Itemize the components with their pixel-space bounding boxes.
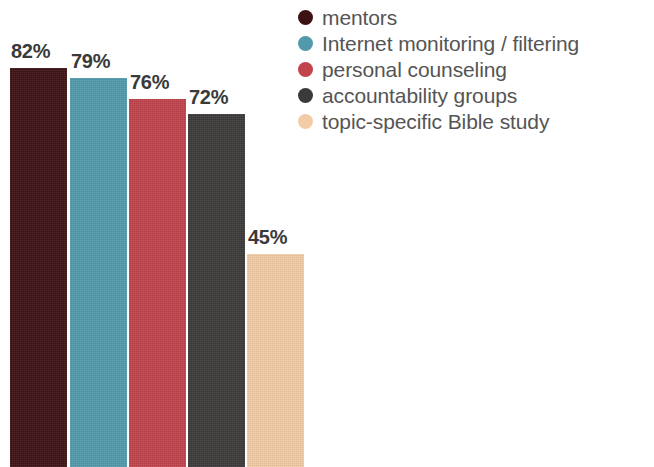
- legend-item-label: personal counseling: [322, 59, 507, 80]
- bar-group: 72%: [188, 110, 245, 467]
- chart-page: 82% 79% 76% 72% 45% mentors Internet mon…: [0, 0, 654, 467]
- legend-item-accountability-groups[interactable]: accountability groups: [298, 82, 654, 108]
- legend-item-personal-counseling[interactable]: personal counseling: [298, 56, 654, 82]
- bar-personal-counseling[interactable]: [129, 99, 186, 467]
- legend-item-label: Internet monitoring / filtering: [322, 33, 579, 54]
- legend-item-mentors[interactable]: mentors: [298, 4, 654, 30]
- bar-topic-specific-bible-study[interactable]: [247, 254, 304, 467]
- bar-group: 76%: [129, 95, 186, 467]
- legend-color-swatch-icon: [298, 114, 313, 129]
- bar-value-label: 72%: [189, 87, 228, 107]
- bar-value-label: 45%: [248, 227, 287, 247]
- legend-color-swatch-icon: [298, 62, 313, 77]
- bar-value-label: 79%: [71, 51, 110, 71]
- legend-item-label: topic-specific Bible study: [322, 111, 549, 132]
- bar-group: 79%: [70, 74, 127, 467]
- legend-color-swatch-icon: [298, 10, 313, 25]
- bar-mentors[interactable]: [10, 68, 67, 467]
- bar-value-label: 82%: [11, 41, 50, 61]
- legend-item-label: accountability groups: [322, 85, 517, 106]
- bar-internet-monitoring-filtering[interactable]: [70, 78, 127, 467]
- legend-item-label: mentors: [322, 7, 397, 28]
- legend-item-topic-specific-bible-study[interactable]: topic-specific Bible study: [298, 108, 654, 134]
- legend-item-internet-monitoring-filtering[interactable]: Internet monitoring / filtering: [298, 30, 654, 56]
- bar-chart-plot-area: 82% 79% 76% 72% 45%: [0, 0, 330, 467]
- bar-value-label: 76%: [130, 72, 169, 92]
- bar-group: 82%: [10, 64, 67, 467]
- bar-group: 45%: [247, 250, 304, 467]
- legend-color-swatch-icon: [298, 36, 313, 51]
- chart-legend: mentors Internet monitoring / filtering …: [298, 4, 654, 134]
- legend-color-swatch-icon: [298, 88, 313, 103]
- bar-accountability-groups[interactable]: [188, 114, 245, 467]
